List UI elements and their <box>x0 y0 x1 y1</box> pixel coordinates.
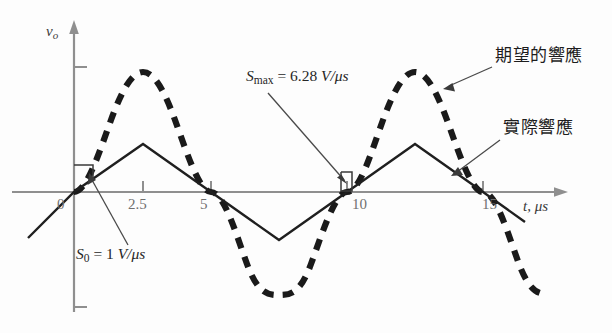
actual-response-label: 實際響應 <box>503 119 573 136</box>
s-max-annotation: Smax = 6.28 V/μs <box>246 68 349 87</box>
s-zero-annotation: S0 = 1 V/μs <box>76 246 145 265</box>
x-axis-label: t, μs <box>523 199 548 214</box>
s-max-subscript: max <box>254 74 274 86</box>
s-zero-equals: = 1 <box>93 245 113 262</box>
desired-response-leader-arrow <box>443 67 492 92</box>
desired-response-label: 期望的響應 <box>495 47 583 64</box>
s-zero-symbol: S <box>76 245 84 262</box>
y-axis-label-subscript: o <box>53 29 59 41</box>
slew-rate-figure: vo t, μs 0 2.5 5 10 15 Smax = 6.28 V/μs … <box>0 0 612 333</box>
s-max-symbol: S <box>246 67 254 84</box>
s-max-unit: V/μs <box>321 67 349 84</box>
s-zero-subscript: 0 <box>84 252 90 264</box>
x-tick-label-0: 0 <box>57 197 65 212</box>
s-max-leader-arrow <box>268 93 347 184</box>
y-axis-label-symbol: v <box>46 23 53 39</box>
s-max-equals: = 6.28 <box>277 67 317 84</box>
axes-group <box>12 20 568 312</box>
x-tick-label-5: 5 <box>200 197 208 212</box>
x-tick-label-10: 10 <box>352 197 367 212</box>
x-tick-label-2.5: 2.5 <box>128 197 147 212</box>
s-zero-leader-arrow <box>88 173 129 245</box>
x-tick-label-15: 15 <box>482 197 497 212</box>
y-axis-label: vo <box>46 24 58 41</box>
y-axis-arrowhead <box>69 20 79 34</box>
x-axis-arrowhead <box>554 187 568 197</box>
s-zero-unit: V/μs <box>118 245 146 262</box>
